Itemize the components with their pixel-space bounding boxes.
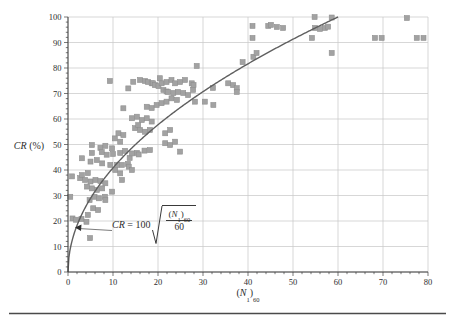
scatter-point	[89, 150, 94, 155]
scatter-point	[191, 87, 196, 92]
y-tick-label: 30	[53, 191, 62, 201]
y-axis-label-var: CR	[14, 140, 27, 151]
scatter-point	[164, 99, 169, 104]
x-tick-label: 50	[289, 277, 298, 287]
scatter-point	[168, 127, 173, 132]
scatter-point	[211, 102, 216, 107]
scatter-point	[181, 90, 186, 95]
scatter-point	[281, 25, 286, 30]
scatter-point	[118, 139, 123, 144]
scatter-point	[93, 177, 98, 182]
x-tick-label: 70	[379, 277, 388, 287]
scatter-point	[183, 77, 188, 82]
scatter-point	[85, 171, 90, 176]
y-axis-label: CR (%)	[6, 140, 52, 151]
scatter-point	[110, 189, 115, 194]
scatter-point	[139, 118, 144, 123]
scatter-point	[240, 60, 245, 65]
scatter-point	[91, 206, 96, 211]
y-tick-label: 80	[53, 63, 62, 73]
scatter-point	[97, 196, 102, 201]
scatter-point	[250, 35, 255, 40]
y-tick-label: 40	[53, 165, 62, 175]
scatter-point	[84, 184, 89, 189]
scatter-point	[234, 89, 239, 94]
scatter-point	[107, 79, 112, 84]
scatter-point	[138, 77, 143, 82]
scatter-point	[178, 80, 183, 85]
scatter-point	[79, 156, 84, 161]
scatter-point	[100, 186, 105, 191]
scatter-point	[108, 162, 113, 167]
scatter-point	[191, 83, 196, 88]
scatter-point	[88, 159, 93, 164]
scatter-point	[104, 152, 109, 157]
scatter-point	[127, 156, 132, 161]
equation-lhs: CR = 100	[112, 219, 150, 230]
scatter-point	[126, 86, 131, 91]
scatter-point	[112, 136, 117, 141]
scatter-point	[202, 99, 207, 104]
scatter-point	[178, 149, 183, 154]
scatter-point	[159, 101, 164, 106]
scatter-point	[142, 148, 147, 153]
y-tick-label: 70	[53, 89, 62, 99]
scatter-point	[192, 99, 197, 104]
scatter-point	[372, 35, 377, 40]
scatter-point	[226, 81, 231, 86]
fraction-numerator: (N1)60	[166, 209, 192, 221]
x-tick-label: 60	[334, 277, 343, 287]
scatter-point	[414, 35, 419, 40]
x-tick-label: 10	[109, 277, 118, 287]
scatter-point	[103, 143, 108, 148]
scatter-point	[169, 96, 174, 101]
scatter-point	[186, 93, 191, 98]
y-tick-label: 60	[53, 114, 62, 124]
scatter-point	[274, 24, 279, 29]
scatter-point	[268, 22, 273, 27]
annotation-leader-line	[79, 229, 113, 231]
scatter-point	[136, 152, 141, 157]
x-tick-label: 80	[424, 277, 433, 287]
fraction: (N1)60 60	[166, 209, 192, 233]
y-tick-label: 20	[53, 216, 62, 226]
y-tick-label: 100	[49, 12, 62, 22]
y-tick-label: 50	[53, 140, 62, 150]
scatter-point	[96, 208, 101, 213]
scatter-point	[404, 16, 409, 21]
scatter-point	[309, 35, 314, 40]
scatter-point	[379, 35, 384, 40]
radicand: (N1)60 60	[162, 205, 196, 233]
scatter-point	[129, 116, 134, 121]
y-tick-label: 0	[57, 267, 61, 277]
scatter-point	[118, 150, 123, 155]
x-tick-label: 30	[199, 277, 208, 287]
scatter-point	[144, 104, 149, 109]
scatter-point	[163, 141, 168, 146]
scatter-point	[149, 106, 154, 111]
scatter-point	[138, 127, 143, 132]
scatter-point	[194, 63, 199, 68]
scatter-point	[120, 162, 125, 167]
scatter-point	[94, 158, 99, 163]
scatter-point	[147, 148, 152, 153]
scatter-point	[121, 133, 126, 138]
scatter-point	[83, 177, 88, 182]
x-tick-label: 0	[66, 277, 70, 287]
scatter-point	[254, 50, 259, 55]
scatter-point	[100, 161, 105, 166]
scatter-point	[168, 143, 173, 148]
radical-expression: (N1)60 60	[152, 204, 196, 245]
scatter-point	[89, 186, 94, 191]
scatter-point	[103, 198, 108, 203]
scatter-point	[312, 15, 317, 20]
scatter-point	[116, 131, 121, 136]
scatter-point	[110, 146, 115, 151]
scatter-point	[326, 24, 331, 29]
scatter-chart-figure: 010203040506070800102030405060708090100 …	[0, 0, 454, 321]
scatter-point	[154, 102, 159, 107]
scatter-point	[164, 80, 169, 85]
scatter-point	[121, 106, 126, 111]
scatter-point	[144, 116, 149, 121]
scatter-point	[85, 212, 90, 217]
